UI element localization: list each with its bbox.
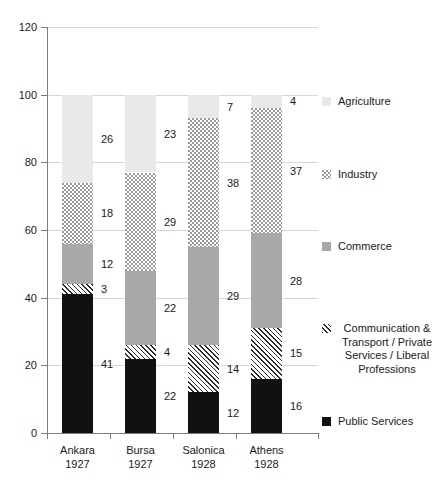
value-label: 26 xyxy=(101,133,113,144)
gridline xyxy=(48,27,318,28)
y-axis-tick xyxy=(41,27,47,28)
value-label: 38 xyxy=(227,177,239,188)
legend-label: Agriculture xyxy=(338,95,391,109)
y-axis-tick-label: 60 xyxy=(25,225,37,236)
stacked-bar-chart: 0204060801001204131218262242229231214293… xyxy=(0,0,436,484)
value-label: 23 xyxy=(164,128,176,139)
bar-segment-industry[interactable] xyxy=(125,173,156,271)
bar-segment-industry[interactable] xyxy=(251,108,282,233)
category-name: Ankara xyxy=(60,444,95,456)
legend-swatch-public-icon xyxy=(322,417,331,426)
value-label: 4 xyxy=(290,96,296,107)
value-label: 3 xyxy=(101,284,107,295)
y-axis-tick-label: 0 xyxy=(31,428,37,439)
bar-segment-commerce[interactable] xyxy=(188,247,219,345)
bar-segment-public[interactable] xyxy=(62,294,93,433)
bar-segment-commerce[interactable] xyxy=(125,271,156,345)
plot-area: 0204060801001204131218262242229231214293… xyxy=(48,27,318,433)
bar-segment-industry[interactable] xyxy=(188,118,219,247)
x-axis-tick xyxy=(47,433,48,439)
y-axis-tick xyxy=(41,365,47,366)
value-label: 29 xyxy=(227,290,239,301)
legend-swatch-communication-icon xyxy=(322,324,331,333)
legend-label: Public Services xyxy=(338,415,413,429)
value-label: 29 xyxy=(164,216,176,227)
legend-label: Commerce xyxy=(338,240,392,254)
bar-segment-commerce[interactable] xyxy=(251,233,282,328)
bar-segment-public[interactable] xyxy=(188,392,219,433)
y-axis-tick xyxy=(41,230,47,231)
y-axis-tick-label: 100 xyxy=(19,89,37,100)
value-label: 12 xyxy=(101,258,113,269)
value-label: 22 xyxy=(164,302,176,313)
value-label: 4 xyxy=(164,346,170,357)
bar-segment-agriculture[interactable] xyxy=(125,95,156,173)
legend-swatch-commerce-icon xyxy=(322,242,331,251)
x-axis-tick xyxy=(318,433,319,439)
value-label: 22 xyxy=(164,390,176,401)
x-axis-tick xyxy=(236,433,237,439)
value-label: 16 xyxy=(290,400,302,411)
x-axis-line xyxy=(47,433,319,434)
chart-legend: AgricultureIndustryCommerceCommunication… xyxy=(322,27,436,433)
value-label: 15 xyxy=(290,348,302,359)
legend-item-public[interactable]: Public Services xyxy=(322,415,436,429)
legend-item-industry[interactable]: Industry xyxy=(322,168,436,182)
y-axis-tick-label: 40 xyxy=(25,292,37,303)
legend-item-commerce[interactable]: Commerce xyxy=(322,240,436,254)
value-label: 41 xyxy=(101,358,113,369)
legend-item-agriculture[interactable]: Agriculture xyxy=(322,95,436,109)
bar-segment-agriculture[interactable] xyxy=(251,95,282,109)
bar-segment-public[interactable] xyxy=(251,379,282,433)
x-axis-tick xyxy=(173,433,174,439)
legend-swatch-industry-icon xyxy=(322,170,331,179)
y-axis-tick xyxy=(41,298,47,299)
legend-label: Communication & Transport / Private Serv… xyxy=(338,322,436,376)
x-axis-tick xyxy=(110,433,111,439)
bar-segment-communication[interactable] xyxy=(251,328,282,379)
bar-segment-commerce[interactable] xyxy=(62,244,93,285)
bar-segment-communication[interactable] xyxy=(188,345,219,392)
value-label: 14 xyxy=(227,363,239,374)
bar-segment-communication[interactable] xyxy=(62,284,93,294)
bar-segment-industry[interactable] xyxy=(62,183,93,244)
value-label: 18 xyxy=(101,208,113,219)
y-axis-tick xyxy=(41,162,47,163)
category-name: Athens xyxy=(249,444,283,456)
value-label: 37 xyxy=(290,165,302,176)
y-axis-tick xyxy=(41,95,47,96)
value-label: 7 xyxy=(227,101,233,112)
value-label: 28 xyxy=(290,275,302,286)
category-name: Salonica xyxy=(182,444,224,456)
x-axis-label-athens: Athens1928 xyxy=(222,443,312,471)
legend-swatch-agriculture-icon xyxy=(322,97,331,106)
y-axis-tick-label: 120 xyxy=(19,22,37,33)
category-name: Bursa xyxy=(126,444,155,456)
bar-segment-agriculture[interactable] xyxy=(188,95,219,119)
bar-segment-agriculture[interactable] xyxy=(62,95,93,183)
legend-item-communication[interactable]: Communication & Transport / Private Serv… xyxy=(322,322,436,376)
y-axis-tick-label: 20 xyxy=(25,360,37,371)
legend-label: Industry xyxy=(338,168,377,182)
bar-segment-communication[interactable] xyxy=(125,345,156,359)
value-label: 12 xyxy=(227,407,239,418)
category-year: 1928 xyxy=(222,457,312,471)
bar-segment-public[interactable] xyxy=(125,359,156,433)
y-axis-tick-label: 80 xyxy=(25,157,37,168)
